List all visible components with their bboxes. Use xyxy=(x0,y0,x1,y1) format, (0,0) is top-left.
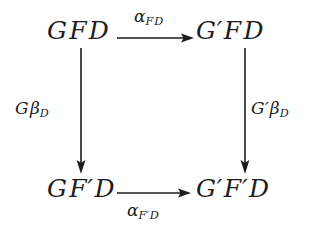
node-top-right-prime-g: ′ xyxy=(217,16,223,45)
beta-label-left-functor: G xyxy=(15,98,29,118)
alpha-subscript-bottom-functor: F xyxy=(138,209,146,222)
node-top-right: G′FD xyxy=(196,18,264,43)
node-top-right-object: D xyxy=(243,16,263,45)
node-bottom-right-prime-g: ′ xyxy=(217,174,223,203)
alpha-subscript-bottom: F′D xyxy=(138,209,158,222)
node-bottom-right: G′F′D xyxy=(196,176,269,201)
arrow-right-vertical xyxy=(238,48,252,176)
commutative-diagram-canvas: GFD G′FD GF′D G′F′D αFD αF′D GβD G′βD xyxy=(0,0,330,240)
node-bottom-left-functor-g: G xyxy=(47,174,67,203)
node-top-left-functor-g: G xyxy=(47,16,67,45)
alpha-subscript-bottom-prime: ′ xyxy=(147,209,150,222)
node-bottom-left: GF′D xyxy=(47,176,115,201)
node-bottom-right-prime-f: ′ xyxy=(242,174,248,203)
beta-label-right-prime: ′ xyxy=(265,98,269,118)
alpha-subscript-top: FD xyxy=(145,15,163,28)
node-bottom-right-object: D xyxy=(249,174,269,203)
node-top-left-functor-f: F xyxy=(69,16,87,45)
arrow-left-vertical xyxy=(74,48,88,176)
alpha-subscript-bottom-object: D xyxy=(150,209,159,222)
arrow-top-horizontal xyxy=(117,31,195,45)
beta-symbol-right: β xyxy=(270,98,280,118)
alpha-subscript-top-object: D xyxy=(154,15,163,28)
node-top-right-functor-g: G xyxy=(196,16,216,45)
node-top-left-object: D xyxy=(89,16,109,45)
alpha-symbol-bottom: α xyxy=(127,200,138,220)
beta-subscript-left: D xyxy=(40,107,49,120)
arrow-label-bottom: αF′D xyxy=(127,202,159,221)
alpha-subscript-top-functor: F xyxy=(145,15,153,28)
arrow-label-top: αFD xyxy=(134,8,163,27)
arrow-label-left: GβD xyxy=(15,100,49,119)
arrow-bottom-horizontal xyxy=(117,186,195,200)
beta-symbol-left: β xyxy=(30,98,40,118)
node-bottom-right-functor-f: F xyxy=(224,174,242,203)
beta-subscript-right: D xyxy=(280,107,289,120)
node-bottom-left-prime-f: ′ xyxy=(87,174,93,203)
alpha-symbol-top: α xyxy=(134,6,145,26)
node-bottom-left-functor-f: F xyxy=(69,174,87,203)
node-top-left: GFD xyxy=(47,18,109,43)
node-bottom-left-object: D xyxy=(94,174,114,203)
beta-label-right-functor: G xyxy=(251,98,265,118)
arrow-label-right: G′βD xyxy=(251,100,289,119)
node-top-right-functor-f: F xyxy=(224,16,242,45)
node-bottom-right-functor-g: G xyxy=(196,174,216,203)
